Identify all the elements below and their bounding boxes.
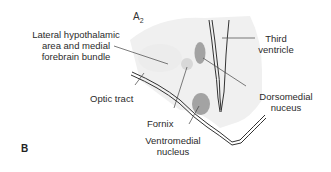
lateral-area-shade <box>138 44 182 72</box>
label-line: Lateral hypothalamic <box>28 29 124 40</box>
section-subscript: 2 <box>140 17 144 24</box>
label-dorsomedial: Dorsomedial nuceus <box>258 91 314 113</box>
label-optic-tract: Optic tract <box>90 93 133 104</box>
hypothalamus-diagram: A2 Lateral hypothalamic area and medial … <box>0 0 331 172</box>
label-line: Third <box>254 33 298 44</box>
label-fornix: Fornix <box>147 118 173 129</box>
label-line: Ventromedial <box>143 135 203 146</box>
label-line: Fornix <box>147 118 173 129</box>
label-line: Dorsomedial <box>258 91 314 102</box>
dorsomedial-nucleus <box>195 42 206 64</box>
label-line: ventricle <box>254 44 298 55</box>
panel-letter: B <box>21 143 28 154</box>
section-identifier: A2 <box>133 11 144 24</box>
label-line: area and medial <box>28 40 124 51</box>
label-line: nuceus <box>258 102 314 113</box>
ventromedial-nucleus <box>192 93 210 115</box>
label-ventromedial: Ventromedial nucleus <box>143 135 203 157</box>
label-line: forebrain bundle <box>28 51 124 62</box>
section-letter: A <box>133 11 140 22</box>
label-lateral-hypothalamic: Lateral hypothalamic area and medial for… <box>28 29 124 62</box>
label-third-ventricle: Third ventricle <box>254 33 298 55</box>
fornix <box>181 58 193 70</box>
label-line: Optic tract <box>90 93 133 104</box>
label-line: nucleus <box>143 146 203 157</box>
